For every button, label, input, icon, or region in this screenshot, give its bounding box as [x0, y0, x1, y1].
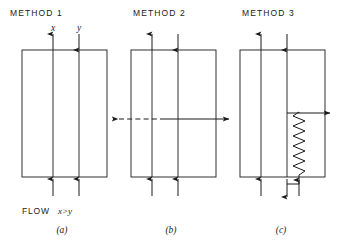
panel-c-restrictor-coil	[293, 112, 305, 175]
flow-methods-figure: METHOD 1 x y FLOW x>y (a) METHOD 2	[0, 0, 342, 245]
panel-c: METHOD 3 (c)	[240, 8, 330, 236]
panel-b-caption: (b)	[165, 225, 176, 236]
panel-c-title: METHOD 3	[242, 8, 295, 18]
panel-a-caption: (a)	[56, 225, 67, 236]
panel-c-coil-bottom-tie	[287, 175, 299, 184]
panel-b-vessel	[131, 50, 216, 177]
panel-c-caption: (c)	[276, 225, 287, 236]
panel-a: METHOD 1 x y FLOW x>y (a)	[10, 8, 107, 236]
panel-b: METHOD 2 (b)	[118, 8, 229, 236]
panel-a-vessel	[22, 50, 107, 177]
panel-b-title: METHOD 2	[133, 8, 186, 18]
panel-a-flow-relation: x>y	[57, 206, 72, 216]
panel-a-title: METHOD 1	[10, 8, 63, 18]
panel-a-label-y: y	[76, 23, 82, 33]
panel-a-flow-label: FLOW	[22, 206, 50, 216]
panel-a-label-x: x	[50, 23, 56, 33]
